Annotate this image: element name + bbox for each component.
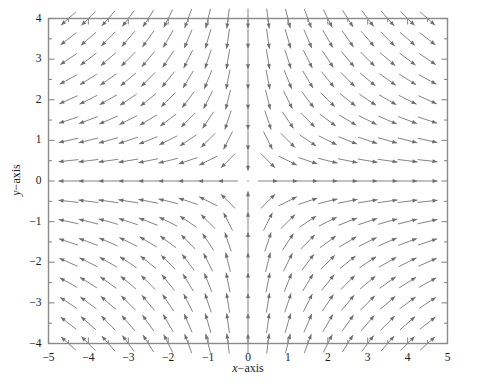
field-arrow-head — [198, 179, 203, 183]
field-arrow-head — [308, 63, 312, 68]
field-arrow-head — [184, 43, 188, 48]
x-tick-label: −2 — [162, 352, 174, 364]
field-arrow-head — [246, 293, 250, 298]
field-arrow-head — [308, 334, 312, 339]
field-arrow-head — [432, 199, 437, 203]
field-arrow-head — [288, 103, 292, 108]
field-arrow-head — [309, 83, 313, 88]
field-arrow-head — [180, 141, 185, 145]
field-arrow-head — [59, 199, 64, 203]
field-arrow-head — [119, 140, 124, 144]
field-arrow-head — [351, 237, 356, 241]
field-arrow-head — [142, 315, 147, 320]
field-arrow-head — [204, 83, 208, 88]
field-arrow-head — [309, 274, 313, 279]
field-arrow-head — [392, 140, 397, 144]
field-arrow-head — [391, 257, 396, 261]
field-arrow-head — [140, 237, 145, 241]
field-arrow-head — [349, 315, 354, 320]
field-arrow-head — [178, 179, 183, 183]
field-arrow-head — [288, 293, 292, 298]
field-arrow-head — [267, 313, 271, 318]
field-arrow-head — [158, 179, 163, 183]
field-arrow-head — [309, 103, 314, 108]
x-tick-label: 3 — [365, 352, 371, 364]
field-arrow-head — [371, 101, 376, 105]
field-arrow-head — [183, 83, 187, 88]
field-arrow-head — [267, 84, 271, 89]
field-arrow-head — [99, 218, 104, 222]
field-arrow-head — [246, 84, 250, 89]
field-arrow-head — [268, 232, 272, 237]
field-arrow-head — [140, 121, 145, 125]
field-arrow-head — [60, 60, 65, 64]
field-arrow-head — [185, 22, 189, 27]
field-arrow-head — [225, 293, 229, 298]
field-arrow-head — [119, 237, 124, 241]
field-arrow-head — [180, 216, 185, 220]
field-arrow-head — [246, 44, 250, 49]
field-arrow-head — [225, 273, 229, 278]
field-arrow-head — [267, 334, 271, 339]
field-arrow-head — [225, 313, 229, 318]
field-arrow-head — [204, 273, 208, 278]
field-arrow-head — [287, 43, 291, 48]
field-arrow-head — [308, 294, 312, 299]
field-arrow-head — [371, 237, 376, 241]
field-arrow-head — [432, 140, 437, 144]
field-arrow-head — [184, 294, 188, 299]
field-arrow-head — [59, 159, 64, 163]
field-arrow-head — [246, 313, 250, 318]
x-tick-label: −1 — [202, 352, 214, 364]
field-arrow-head — [273, 179, 278, 183]
field-arrow-head — [79, 238, 84, 242]
field-arrow-head — [372, 140, 377, 144]
field-arrow-head — [79, 258, 84, 262]
field-arrow-head — [431, 297, 436, 301]
field-arrow-head — [184, 314, 188, 319]
field-arrow-head — [203, 123, 207, 128]
field-arrow-head — [433, 179, 438, 183]
field-arrow-head — [392, 199, 397, 203]
field-arrow-head — [311, 141, 316, 145]
field-arrow-head — [78, 199, 83, 203]
field-arrow-head — [329, 315, 333, 320]
field-arrow-head — [99, 140, 104, 144]
field-arrow-head — [246, 212, 250, 217]
field-arrow-head — [432, 120, 437, 124]
field-arrow-head — [184, 63, 188, 68]
field-arrow-head — [139, 218, 144, 222]
field-arrow-head — [159, 217, 164, 221]
field-arrow-head — [410, 297, 415, 302]
field-arrow-head — [246, 105, 250, 110]
y-axis-title-variable: y — [9, 190, 23, 195]
field-arrow-head — [349, 22, 353, 27]
field-arrow-head — [122, 336, 127, 341]
y-tick-label: −2 — [29, 257, 41, 269]
field-arrow-head — [288, 253, 292, 258]
field-arrow-head — [218, 179, 223, 183]
field-arrow-head — [225, 84, 229, 89]
field-arrow-head — [391, 277, 396, 282]
field-arrow-head — [432, 238, 437, 242]
field-arrow-head — [352, 140, 357, 144]
field-arrow-head — [293, 179, 298, 183]
field-arrow-head — [432, 159, 437, 163]
field-arrow-head — [143, 335, 147, 340]
field-arrow-head — [59, 140, 64, 144]
field-arrow-head — [349, 42, 354, 47]
field-arrow-head — [199, 161, 204, 165]
field-arrow-head — [203, 234, 207, 239]
field-arrow-head — [59, 258, 64, 262]
field-arrow-head — [225, 232, 229, 237]
field-arrow-head — [138, 160, 143, 164]
field-arrow-head — [352, 218, 357, 222]
field-arrow-head — [99, 120, 104, 124]
field-arrow-head — [268, 144, 272, 149]
x-tick-label: 2 — [325, 352, 331, 364]
field-arrow-head — [160, 121, 165, 126]
field-arrow-head — [138, 198, 143, 202]
field-arrow-head — [289, 234, 293, 239]
field-arrow-head — [224, 144, 228, 149]
field-arrow-head — [225, 334, 229, 339]
